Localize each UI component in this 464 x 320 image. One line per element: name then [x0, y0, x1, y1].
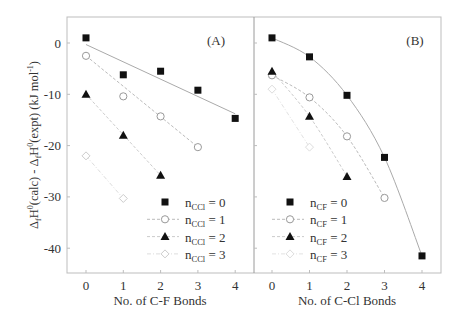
y-tick-label: -20: [44, 138, 61, 153]
data-point: [268, 67, 277, 75]
y-tick-label: -40: [44, 241, 61, 256]
legend-label: nCCl = 0: [185, 195, 226, 212]
legend-label: nCCl = 2: [185, 230, 226, 247]
data-point: [82, 90, 91, 98]
data-point: [119, 194, 127, 202]
x-tick-label: 0: [269, 278, 276, 293]
x-axis-label-b: No. of C-Cl Bonds: [298, 293, 396, 308]
series-line: [86, 45, 235, 114]
legend-marker: [161, 216, 168, 223]
legends: nCCl = 0nCCl = 1nCCl = 2nCCl = 3nCF = 0n…: [147, 195, 347, 264]
legend-marker: [287, 199, 294, 206]
legend-marker: [286, 216, 293, 223]
legend-marker: [161, 250, 169, 258]
series-line: [86, 56, 198, 147]
x-tick-label: 0: [83, 278, 90, 293]
x-tick-label: 1: [120, 278, 127, 293]
data-point: [83, 34, 90, 41]
data-point: [306, 53, 313, 60]
series-line: [272, 89, 310, 147]
data-point: [344, 92, 351, 99]
legend-label: nCF = 2: [310, 230, 347, 247]
legend-label: nCCl = 1: [185, 212, 226, 229]
chart: 012340-10-20-30-4001234 nCCl = 0nCCl = 1…: [0, 0, 464, 320]
data-point: [157, 68, 164, 75]
legend-label: nCF = 1: [310, 212, 347, 229]
svg-text:ΔfH0(calc) - ΔfH0(expt) (kJ m: ΔfH0(calc) - ΔfH0(expt) (kJ mol-1): [26, 61, 43, 229]
data-point: [419, 252, 426, 259]
x-tick-label: 1: [306, 278, 313, 293]
x-tick-label: 3: [381, 278, 388, 293]
data-point: [157, 113, 164, 120]
y-tick-label: -30: [44, 189, 61, 204]
data-point: [305, 112, 314, 120]
legend-label: nCCl = 3: [185, 247, 226, 264]
series-line: [272, 71, 347, 176]
series-line: [86, 156, 123, 199]
data-point: [194, 87, 201, 94]
y-tick-label: 0: [55, 36, 62, 51]
data-point: [381, 154, 388, 161]
legend-marker: [286, 250, 294, 258]
y-tick-label: -10: [44, 87, 61, 102]
data-point: [268, 85, 276, 93]
legend-marker: [162, 199, 169, 206]
plot-frame: [67, 17, 441, 273]
data-point: [306, 143, 314, 151]
x-tick-label: 2: [157, 278, 164, 293]
x-tick-label: 4: [419, 278, 426, 293]
series-line: [272, 75, 385, 198]
panel-b-title: (B): [406, 33, 423, 48]
data-point: [120, 71, 127, 78]
axes: 012340-10-20-30-4001234: [44, 36, 426, 294]
x-tick-label: 2: [344, 278, 351, 293]
x-tick-label: 4: [232, 278, 239, 293]
data-point: [381, 194, 388, 201]
y-axis-label: ΔfH0(calc) - ΔfH0(expt) (kJ mol-1): [26, 61, 43, 229]
panel-a-title: (A): [207, 33, 225, 48]
data-point: [120, 93, 127, 100]
x-tick-label: 3: [195, 278, 202, 293]
data-point: [269, 34, 276, 41]
legend-label: nCF = 3: [310, 247, 347, 264]
data-point: [306, 94, 313, 101]
data-point: [343, 133, 350, 140]
data-point: [194, 144, 201, 151]
x-axis-label-a: No. of C-F Bonds: [113, 293, 206, 308]
data-point: [343, 172, 352, 180]
legend-label: nCF = 0: [310, 195, 347, 212]
data-point: [232, 115, 239, 122]
data-point: [82, 52, 89, 59]
